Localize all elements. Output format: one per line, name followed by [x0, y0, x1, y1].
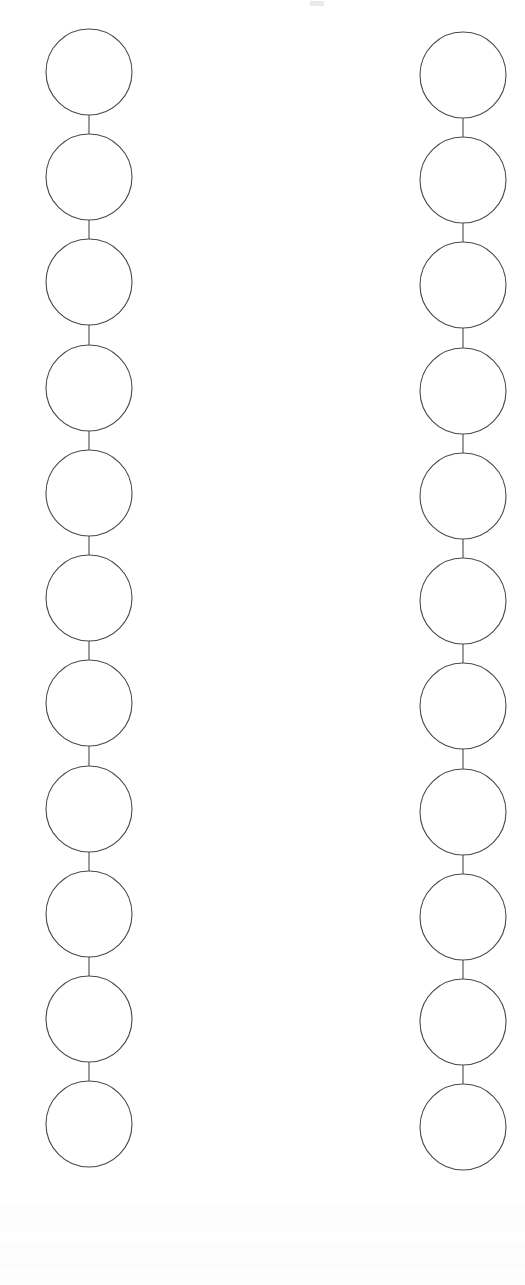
diagram-page [0, 0, 525, 1285]
chain-node-circle [420, 769, 506, 855]
chain-node-circle [46, 29, 132, 115]
chain-node-circle [46, 1081, 132, 1167]
chain-node-circle [46, 555, 132, 641]
circle-chain-diagram [0, 0, 525, 1285]
chain-node-circle [420, 242, 506, 328]
chain-node-circle [46, 871, 132, 957]
chain-node-circle [420, 137, 506, 223]
chain-node-circle [420, 1084, 506, 1170]
chain-node-circle [420, 663, 506, 749]
chain-node-circle [420, 453, 506, 539]
chain-node-circle [46, 450, 132, 536]
chain-node-circle [46, 766, 132, 852]
chain-node-circle [46, 134, 132, 220]
left-chain [46, 29, 132, 1167]
chain-node-circle [420, 348, 506, 434]
right-chain [420, 32, 506, 1170]
chain-node-circle [46, 345, 132, 431]
chain-node-circle [46, 239, 132, 325]
chain-node-circle [420, 979, 506, 1065]
chain-node-circle [420, 558, 506, 644]
chain-node-circle [46, 660, 132, 746]
chain-node-circle [420, 874, 506, 960]
chain-node-circle [46, 976, 132, 1062]
chain-node-circle [420, 32, 506, 118]
